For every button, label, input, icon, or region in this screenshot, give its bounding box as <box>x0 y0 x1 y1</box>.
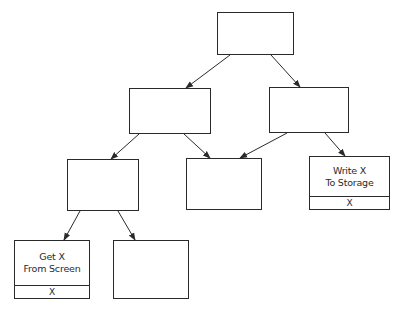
edge-n2-n5 <box>184 134 210 158</box>
node-get-x-from-screen: Get X From Screen X <box>14 240 90 299</box>
node-level3-middle <box>186 158 262 210</box>
edge-n4-n7 <box>64 211 80 240</box>
node-root <box>217 12 294 55</box>
node-level2-left <box>129 88 211 134</box>
node-data-footer: X <box>310 196 389 209</box>
edge-n1-n3 <box>271 55 300 87</box>
node-data-footer: X <box>15 285 89 298</box>
edge-n3-n5 <box>240 133 287 158</box>
node-label-line2: To Storage <box>325 177 373 189</box>
edge-n1-n2 <box>186 55 230 88</box>
edge-n2-n4 <box>111 134 139 159</box>
node-level2-right <box>269 87 349 133</box>
node-label-line2: From Screen <box>23 263 80 275</box>
node-write-x-to-storage: Write X To Storage X <box>309 156 390 210</box>
node-label-line1: Get X <box>39 251 64 263</box>
node-level4-right <box>113 240 189 299</box>
node-label-line1: Write X <box>333 165 366 177</box>
edge-n4-n8 <box>118 211 135 240</box>
node-level3-left <box>67 159 139 211</box>
edge-n3-n6 <box>325 133 345 156</box>
